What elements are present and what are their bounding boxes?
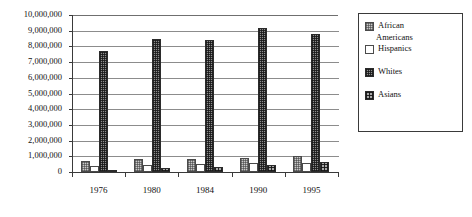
legend-item-whites[interactable]: Whites [365,66,462,77]
legend-label-african-americans-line2: Americans [376,32,413,42]
bar-asians-1990 [267,165,276,172]
bar-group-1980 [125,15,178,172]
y-axis-tick-label: 2,000,000 [0,136,68,145]
bar-layer [72,15,338,172]
bar-african-americans-1984 [187,159,196,172]
bar-group-1976 [72,15,125,172]
bar-group-1995 [285,15,338,172]
bar-hispanics-1995 [302,163,311,172]
legend-label-hispanics: Hispanics [378,43,412,53]
x-axis-tickmark [285,172,286,177]
legend-label-african-americans: African [378,20,404,30]
legend-label-asians: Asians [378,89,401,99]
bar-asians-1995 [320,162,329,172]
x-axis-tickmark [232,172,233,177]
bar-whites-1980 [152,39,161,172]
bar-group-1984 [178,15,231,172]
x-axis-tickmark [178,172,179,177]
bar-hispanics-1984 [196,164,205,172]
bar-african-americans-1990 [240,158,249,172]
legend-spacer [365,55,462,66]
legend-swatch-african-americans-icon [365,22,374,31]
bar-hispanics-1980 [143,165,152,172]
legend-swatch-hispanics-icon [365,45,374,54]
y-axis-tick-label: 10,000,000 [0,10,68,19]
x-axis-label-1976: 1976 [72,185,125,195]
y-axis-tick-label: 7,000,000 [0,57,68,66]
x-axis-label-1995: 1995 [285,185,338,195]
y-axis-tick-label: 8,000,000 [0,41,68,50]
x-axis-label-1980: 1980 [125,185,178,195]
x-axis-tickmark [125,172,126,177]
y-axis-tick-label: 5,000,000 [0,89,68,98]
x-axis-labels: 19761980198419901995 [72,185,338,195]
bar-whites-1984 [205,40,214,172]
bar-group-1990 [232,15,285,172]
legend-item-african-americans[interactable]: African [365,20,462,31]
x-axis-tickmark [338,172,339,177]
bar-african-americans-1976 [81,161,90,172]
bar-chart: 01,000,0002,000,0003,000,0004,000,0005,0… [0,0,472,217]
legend-spacer [365,78,462,89]
y-axis-tick-label: 1,000,000 [0,151,68,160]
legend-item-asians[interactable]: Asians [365,89,462,100]
bar-whites-1976 [99,51,108,172]
bar-african-americans-1995 [293,156,302,172]
y-axis-tick-label: 0 [0,167,68,176]
x-axis-tickmark [72,172,73,177]
x-axis-label-1990: 1990 [232,185,285,195]
y-axis-tick-label: 6,000,000 [0,73,68,82]
chart-legend: African Americans Hispanics Whites Asian… [358,13,463,132]
legend-swatch-asians-icon [365,91,374,100]
y-axis-tick-label: 9,000,000 [0,26,68,35]
legend-label-whites: Whites [378,66,402,76]
legend-swatch-whites-icon [365,68,374,77]
bar-hispanics-1990 [249,163,258,172]
y-axis-tick-label: 3,000,000 [0,120,68,129]
legend-item-african-americans-line2: Americans [376,32,462,42]
bar-whites-1990 [258,28,267,172]
y-axis-tick-label: 4,000,000 [0,104,68,113]
x-axis-ticks [72,172,338,177]
legend-item-hispanics[interactable]: Hispanics [365,43,462,54]
x-axis-label-1984: 1984 [178,185,231,195]
bar-whites-1995 [311,34,320,172]
y-axis-labels: 01,000,0002,000,0003,000,0004,000,0005,0… [0,0,68,217]
bar-african-americans-1980 [134,159,143,172]
